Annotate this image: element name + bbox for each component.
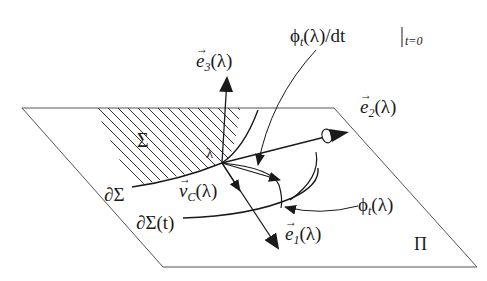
- svg-text:→: →: [285, 215, 297, 229]
- e2-vector: [222, 137, 325, 163]
- svg-text:t=0: t=0: [405, 34, 422, 48]
- svg-text:ϕt(λ)/dt: ϕt(λ)/dt: [290, 25, 346, 49]
- e3-vector: [222, 78, 227, 163]
- label-e2: e2(λ) →: [360, 88, 396, 120]
- svg-text:→: →: [360, 88, 372, 102]
- label-vc: vC(λ) →: [179, 172, 217, 204]
- right-arc: [290, 152, 317, 200]
- label-lambda: λ: [206, 145, 214, 161]
- label-dphi-dt: ϕt(λ)/dt t=0: [290, 25, 422, 49]
- label-dsigma-t: ∂Σ(t): [136, 212, 174, 234]
- svg-text:→: →: [196, 42, 208, 56]
- label-e3: e3(λ) →: [196, 42, 232, 74]
- phi-leader-line: [285, 206, 358, 211]
- trajectory-curve: [222, 163, 282, 208]
- differential-geometry-diagram: e3(λ) → ϕt(λ)/dt t=0 e2(λ) → Σ λ ∂Σ vC(λ…: [0, 0, 487, 281]
- plane-pi: [22, 108, 477, 267]
- svg-text:ϕt(λ): ϕt(λ): [358, 194, 393, 218]
- label-phi-t: ϕt(λ): [358, 194, 393, 218]
- label-dsigma: ∂Σ: [104, 184, 124, 205]
- e2-cone-icon: [320, 128, 349, 144]
- label-sigma: Σ: [137, 129, 149, 151]
- svg-text:→: →: [179, 172, 191, 186]
- label-e1: e1(λ) →: [285, 215, 321, 247]
- label-plane-pi: Π: [414, 234, 427, 254]
